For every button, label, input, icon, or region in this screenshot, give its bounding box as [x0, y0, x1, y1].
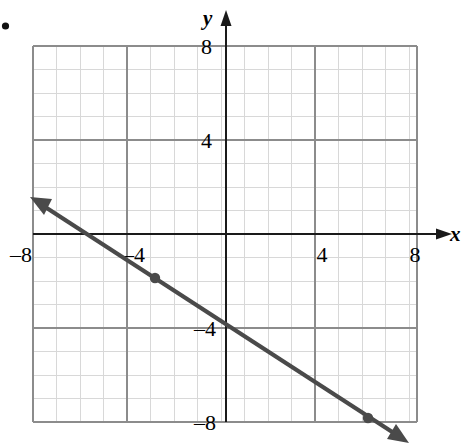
graph-svg: x y –8 –4 4 8 8 4 –4 –8 [0, 0, 464, 448]
y-axis-arrowhead [221, 10, 232, 26]
y-axis-label: y [200, 6, 213, 30]
bullet-marker [2, 22, 9, 29]
x-tick-label-8: 8 [410, 242, 421, 267]
y-tick-label-neg8: –8 [193, 410, 216, 435]
x-axis-label: x [449, 222, 461, 246]
line-arrowhead-right [387, 424, 409, 443]
x-tick-label-4: 4 [317, 242, 328, 267]
plotted-point-2 [363, 413, 373, 423]
line-segment [39, 203, 400, 437]
x-tick-label-neg8: –8 [9, 242, 32, 267]
axes [33, 10, 452, 422]
y-tick-label-8: 8 [201, 34, 212, 59]
y-tick-label-neg4: –4 [193, 316, 216, 341]
coordinate-plane-figure: x y –8 –4 4 8 8 4 –4 –8 [0, 0, 464, 448]
y-tick-label-4: 4 [201, 128, 212, 153]
plotted-point-1 [150, 273, 160, 283]
